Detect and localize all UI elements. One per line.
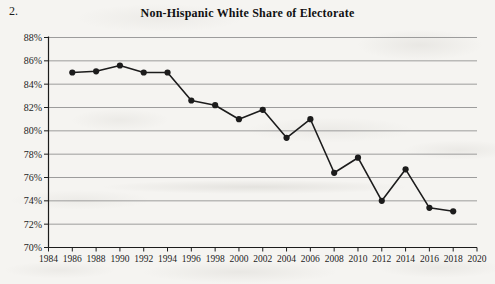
- y-tick-label: 84%: [24, 79, 42, 90]
- data-point: [212, 102, 218, 108]
- x-tick-label: 1990: [110, 254, 129, 264]
- x-tick-label: 1988: [87, 254, 106, 264]
- x-tick-label: 1986: [63, 254, 82, 264]
- y-tick-label: 88%: [24, 32, 42, 43]
- data-point: [426, 205, 432, 211]
- data-point: [402, 166, 408, 172]
- data-point: [69, 69, 75, 75]
- x-tick-label: 1992: [134, 254, 153, 264]
- data-point: [355, 155, 361, 161]
- data-point: [117, 62, 123, 68]
- y-tick-label: 86%: [24, 55, 42, 66]
- x-tick-label: 2010: [348, 254, 367, 264]
- x-tick-label: 1996: [182, 254, 201, 264]
- x-tick-label: 2000: [229, 254, 248, 264]
- x-tick-label: 2018: [444, 254, 463, 264]
- data-point: [141, 69, 147, 75]
- y-tick-label: 76%: [24, 172, 42, 183]
- x-tick-label: 2012: [372, 254, 391, 264]
- data-line: [72, 66, 453, 212]
- x-tick-label: 2006: [301, 254, 320, 264]
- data-point: [450, 208, 456, 214]
- x-tick-label: 2004: [277, 254, 296, 264]
- data-point: [307, 116, 313, 122]
- x-tick-label: 2014: [396, 254, 415, 264]
- x-tick-label: 2016: [420, 254, 439, 264]
- y-tick-label: 78%: [24, 149, 42, 160]
- y-tick-label: 82%: [24, 102, 42, 113]
- x-tick-label: 2002: [253, 254, 272, 264]
- y-tick-label: 70%: [24, 242, 42, 253]
- data-point: [283, 135, 289, 141]
- data-point: [188, 97, 194, 103]
- data-point: [164, 69, 170, 75]
- data-point: [236, 116, 242, 122]
- y-tick-label: 80%: [24, 125, 42, 136]
- line-chart: 70%72%74%76%78%80%82%84%86%88%1984198619…: [0, 0, 495, 284]
- data-point: [260, 107, 266, 113]
- x-tick-label: 1998: [206, 254, 225, 264]
- data-point: [331, 170, 337, 176]
- data-point: [379, 198, 385, 204]
- x-tick-label: 2020: [468, 254, 487, 264]
- y-tick-label: 74%: [24, 195, 42, 206]
- y-tick-label: 72%: [24, 219, 42, 230]
- x-tick-label: 2008: [325, 254, 344, 264]
- data-point: [93, 68, 99, 74]
- x-tick-label: 1984: [39, 254, 58, 264]
- x-tick-label: 1994: [158, 254, 177, 264]
